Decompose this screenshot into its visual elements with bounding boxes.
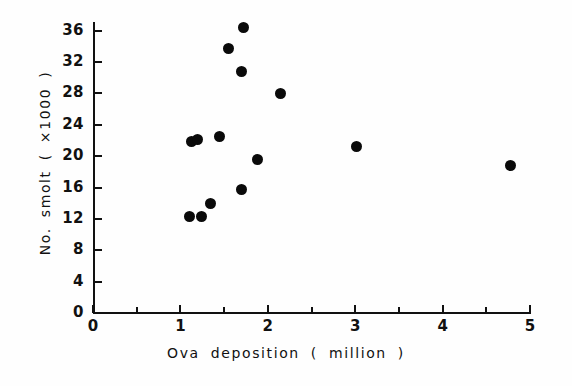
- data-point: [236, 66, 247, 77]
- x-minor-tick-2.5: [311, 307, 313, 313]
- y-tick-36: [95, 30, 102, 32]
- data-point: [223, 43, 234, 54]
- y-tick-label-0: 0: [0, 303, 84, 321]
- y-axis-title: No. smolt ( ×1000 ): [37, 23, 53, 303]
- data-point: [192, 134, 203, 145]
- y-tick-20: [95, 155, 102, 157]
- y-tick-16: [95, 187, 102, 189]
- scatter-chart-figure: 04812162024283236 012345 No. smolt ( ×10…: [0, 0, 572, 386]
- data-point: [252, 154, 263, 165]
- x-tick-label-4: 4: [428, 317, 458, 335]
- data-point: [351, 141, 362, 152]
- data-point: [214, 131, 225, 142]
- x-tick-5: [529, 305, 531, 313]
- y-tick-32: [95, 61, 102, 63]
- x-tick-0: [92, 305, 94, 313]
- x-tick-label-3: 3: [340, 317, 370, 335]
- x-tick-1: [179, 305, 181, 313]
- x-minor-tick-1.5: [223, 307, 225, 313]
- x-tick-label-0: 0: [78, 317, 108, 335]
- x-minor-tick-4.5: [485, 307, 487, 313]
- y-tick-12: [95, 218, 102, 220]
- x-minor-tick-3.5: [398, 307, 400, 313]
- data-point: [205, 198, 216, 209]
- x-axis-title: Ova deposition ( million ): [0, 345, 572, 361]
- x-tick-label-5: 5: [515, 317, 545, 335]
- x-minor-tick-0.5: [136, 307, 138, 313]
- data-point: [505, 160, 516, 171]
- y-tick-28: [95, 92, 102, 94]
- y-tick-0: [95, 312, 102, 314]
- y-axis-line: [93, 22, 95, 314]
- data-point: [184, 211, 195, 222]
- x-tick-3: [354, 305, 356, 313]
- data-point: [196, 211, 207, 222]
- data-point: [236, 184, 247, 195]
- x-tick-label-2: 2: [253, 317, 283, 335]
- y-tick-4: [95, 281, 102, 283]
- x-tick-4: [442, 305, 444, 313]
- x-tick-2: [267, 305, 269, 313]
- y-tick-24: [95, 124, 102, 126]
- data-point: [275, 88, 286, 99]
- x-tick-label-1: 1: [165, 317, 195, 335]
- y-tick-8: [95, 249, 102, 251]
- data-point: [238, 22, 249, 33]
